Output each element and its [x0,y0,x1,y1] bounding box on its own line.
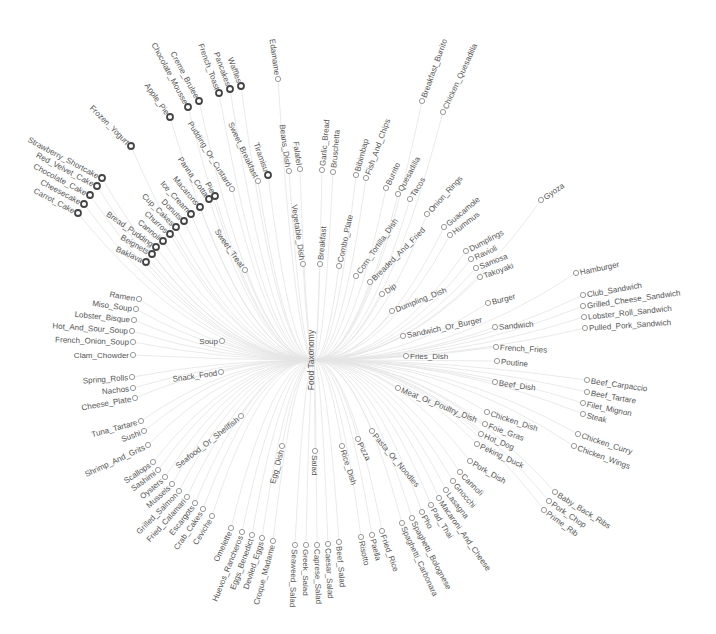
node-circle-icon[interactable] [167,114,173,120]
tree-node-snack-food[interactable]: Snack_Food [172,369,224,384]
tree-node-sushi[interactable]: Sushi [120,428,147,444]
tree-node-sandwich[interactable]: Sandwich [492,320,534,332]
node-circle-icon[interactable] [87,192,93,198]
tree-node-steak[interactable]: Steak [580,411,608,425]
node-circle-icon[interactable] [131,317,136,322]
tree-node-chicken-quesadilla[interactable]: Chicken_Quesadilla [440,42,479,115]
tree-node-burger[interactable]: Burger [485,292,516,307]
node-circle-icon[interactable] [130,352,135,357]
node-circle-icon[interactable] [130,385,135,390]
node-circle-icon[interactable] [279,443,284,448]
tree-node-hamburger[interactable]: Hamburger [573,260,620,277]
node-circle-icon[interactable] [197,204,203,210]
node-circle-icon[interactable] [424,211,429,216]
tree-node-breakfast[interactable]: Breakfast [316,225,328,266]
node-circle-icon[interactable] [447,232,452,237]
node-circle-icon[interactable] [238,413,243,418]
node-circle-icon[interactable] [399,520,404,525]
node-circle-icon[interactable] [317,261,322,266]
node-circle-icon[interactable] [428,502,433,507]
node-circle-icon[interactable] [265,172,271,178]
node-circle-icon[interactable] [219,338,224,343]
node-circle-icon[interactable] [188,211,194,217]
node-circle-icon[interactable] [541,507,546,512]
node-circle-icon[interactable] [259,535,264,540]
node-circle-icon[interactable] [169,481,174,486]
node-circle-icon[interactable] [552,489,557,494]
node-circle-icon[interactable] [229,186,234,191]
node-circle-icon[interactable] [94,183,100,189]
node-circle-icon[interactable] [478,431,483,436]
node-circle-icon[interactable] [369,532,374,537]
node-circle-icon[interactable] [143,259,149,265]
node-circle-icon[interactable] [546,498,551,503]
node-circle-icon[interactable] [575,431,580,436]
node-circle-icon[interactable] [249,532,254,537]
node-circle-icon[interactable] [81,201,87,207]
tree-node-seafood-or-shellfish[interactable]: Seafood_Or_Shellfish [174,413,244,470]
node-circle-icon[interactable] [149,251,155,257]
node-circle-icon[interactable] [200,506,205,511]
node-circle-icon[interactable] [389,308,394,313]
tree-node-greek-salad[interactable]: Greek_Salad [301,542,310,595]
node-circle-icon[interactable] [181,218,187,224]
node-circle-icon[interactable] [580,400,585,405]
node-circle-icon[interactable] [167,231,173,237]
tree-node-beans-dish[interactable]: Beans_Dish [277,124,292,174]
node-circle-icon[interactable] [436,495,441,500]
node-circle-icon[interactable] [176,488,181,493]
node-circle-icon[interactable] [457,469,462,474]
node-circle-icon[interactable] [355,436,360,441]
node-circle-icon[interactable] [450,478,455,483]
node-circle-icon[interactable] [314,542,319,547]
node-circle-icon[interactable] [130,339,135,344]
node-circle-icon[interactable] [239,529,244,534]
node-circle-icon[interactable] [369,428,374,433]
node-circle-icon[interactable] [185,104,191,110]
tree-node-bruschetta[interactable]: Bruschetta [329,129,341,175]
node-circle-icon[interactable] [129,328,134,333]
tree-node-meat-or-poultry-dish[interactable]: Meat_Or_Poultry_Dish [395,385,478,424]
node-circle-icon[interactable] [580,411,585,416]
node-circle-icon[interactable] [297,166,302,171]
tree-node-combo-plate[interactable]: Combo_Plate [336,213,355,268]
tree-node-seaweed-salad[interactable]: Seaweed_Salad [288,542,299,607]
node-circle-icon[interactable] [238,83,244,89]
node-circle-icon[interactable] [129,374,134,379]
node-circle-icon[interactable] [150,459,155,464]
node-circle-icon[interactable] [206,196,212,202]
node-circle-icon[interactable] [494,358,499,363]
node-circle-icon[interactable] [160,238,166,244]
node-circle-icon[interactable] [192,500,197,505]
node-circle-icon[interactable] [441,224,446,229]
tree-node-pizza[interactable]: Pizza [355,436,372,462]
node-circle-icon[interactable] [383,185,388,190]
node-circle-icon[interactable] [128,143,134,149]
node-circle-icon[interactable] [379,291,384,296]
tree-node-soup[interactable]: Soup [199,337,224,346]
tree-node-fried-rice[interactable]: Fried_Rice [379,528,401,573]
node-circle-icon[interactable] [581,314,586,319]
node-circle-icon[interactable] [473,265,478,270]
tree-node-cheese-plate[interactable]: Cheese_Plate [81,395,138,413]
node-circle-icon[interactable] [162,474,167,479]
node-circle-icon[interactable] [275,76,280,81]
node-circle-icon[interactable] [319,167,324,172]
tree-node-spring-rolls[interactable]: Spring_Rolls [82,373,134,385]
tree-node-pasta-or-noodles[interactable]: Pasta_Or_Noodles [369,428,421,489]
node-circle-icon[interactable] [482,421,487,426]
tree-node-fries-dish[interactable]: Fries_Dish [403,352,448,361]
node-circle-icon[interactable] [419,509,424,514]
node-circle-icon[interactable] [379,528,384,533]
tree-node-clam-chowder[interactable]: Clam_Chowder [74,351,136,360]
node-circle-icon[interactable] [145,442,150,447]
node-circle-icon[interactable] [468,256,473,261]
node-circle-icon[interactable] [467,458,472,463]
node-circle-icon[interactable] [358,534,363,539]
node-circle-icon[interactable] [363,175,368,180]
node-circle-icon[interactable] [582,325,587,330]
node-circle-icon[interactable] [463,248,468,253]
tree-node-frozen-yogurt[interactable]: Frozen_Yogurt [88,103,134,149]
node-circle-icon[interactable] [395,191,400,196]
node-circle-icon[interactable] [584,377,589,382]
